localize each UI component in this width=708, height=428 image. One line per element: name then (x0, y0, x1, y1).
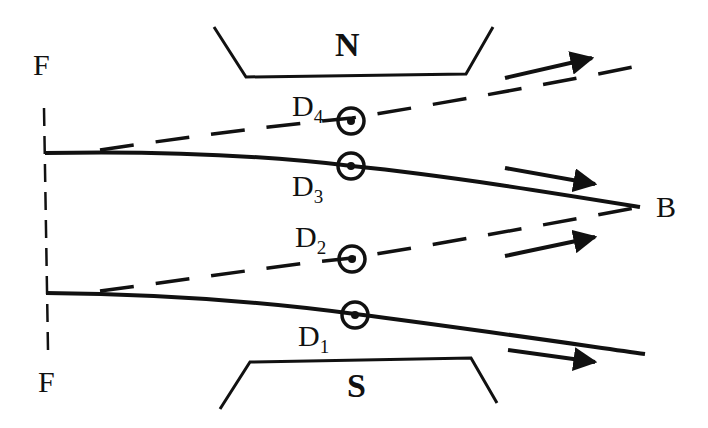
label-south: S (347, 367, 366, 404)
arrow-top (505, 58, 592, 78)
focal-line-ff (44, 108, 48, 350)
trajectory-upper-dashed (100, 65, 643, 150)
trajectory-upper-solid (45, 153, 640, 207)
arrow-lower-mid (505, 237, 595, 256)
label-d3: D3 (292, 169, 323, 207)
detector-d4-icon (338, 108, 364, 134)
label-d1: D1 (298, 319, 329, 357)
diagram-canvas: F F B N S D4 D3 D2 D1 (0, 0, 708, 428)
arrow-upper-mid (505, 168, 595, 184)
label-f-bottom: F (38, 365, 55, 398)
label-d2: D2 (295, 220, 326, 258)
arrow-bottom (508, 350, 595, 362)
trajectory-lower-dashed (100, 207, 640, 291)
label-north: N (335, 26, 360, 63)
label-d4: D4 (292, 89, 324, 127)
label-f-top: F (33, 48, 50, 81)
label-b: B (656, 190, 676, 223)
